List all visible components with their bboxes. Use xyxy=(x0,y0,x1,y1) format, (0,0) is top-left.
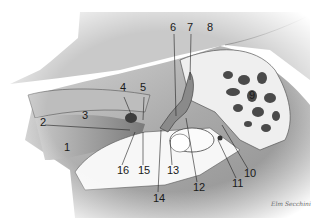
label-8: 8 xyxy=(207,22,213,33)
label-7: 7 xyxy=(187,22,193,33)
label-11: 11 xyxy=(232,178,243,189)
label-5: 5 xyxy=(140,82,146,93)
label-12: 12 xyxy=(193,182,205,193)
label-3: 3 xyxy=(82,110,88,121)
label-2: 2 xyxy=(40,117,46,128)
label-16: 16 xyxy=(117,165,129,176)
label-10: 10 xyxy=(244,168,256,179)
label-9: 9 xyxy=(249,90,255,101)
anatomical-illustration xyxy=(0,0,333,223)
label-6: 6 xyxy=(170,22,176,33)
label-13: 13 xyxy=(167,165,179,176)
label-15: 15 xyxy=(138,165,150,176)
label-14: 14 xyxy=(153,193,165,204)
artist-signature: Elm Secchini xyxy=(271,200,311,207)
label-4: 4 xyxy=(120,82,126,93)
label-1: 1 xyxy=(64,142,70,153)
